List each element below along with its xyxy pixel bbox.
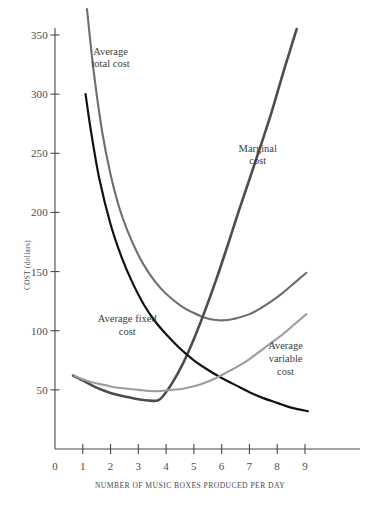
x-tick-label: 2 <box>108 460 114 472</box>
x-tick-label: 5 <box>191 460 197 472</box>
axes <box>55 28 360 449</box>
average-total-cost-label: Averagetotal cost <box>91 46 129 72</box>
annotation-line: variable <box>268 353 303 366</box>
y-tick-label: 50 <box>18 384 48 396</box>
x-tick-label: 3 <box>135 460 141 472</box>
x-tick-label: 8 <box>274 460 280 472</box>
cost-curves-figure: 50100150200250300350 0123456789 Averaget… <box>0 0 373 510</box>
x-tick-label: 9 <box>302 460 308 472</box>
chart-plot-area <box>0 0 373 510</box>
annotation-line: Average <box>91 46 129 59</box>
average-variable-cost-label: Averagevariablecost <box>268 340 303 378</box>
y-tick-label: 350 <box>18 29 48 41</box>
annotation-line: cost <box>239 156 277 169</box>
annotation-line: Marginal <box>239 143 277 156</box>
average-fixed-cost-label: Average fixedcost <box>98 313 157 339</box>
x-tick-label: 7 <box>247 460 253 472</box>
y-tick-label: 100 <box>18 325 48 337</box>
annotation-line: Average <box>268 340 303 353</box>
marginal-cost-curve <box>73 29 297 401</box>
x-axis-title: NUMBER OF MUSIC BOXES PRODUCED PER DAY <box>95 481 285 490</box>
x-tick-label: 6 <box>219 460 225 472</box>
y-tick-label: 150 <box>18 266 48 278</box>
annotation-line: cost <box>268 365 303 378</box>
x-tick-label: 0 <box>52 460 58 472</box>
marginal-cost-label: Marginalcost <box>239 143 277 169</box>
y-tick-label: 300 <box>18 88 48 100</box>
y-axis-title: COST (dollars) <box>24 240 32 290</box>
annotation-line: total cost <box>91 59 129 72</box>
y-tick-label: 200 <box>18 206 48 218</box>
annotation-line: cost <box>98 326 157 339</box>
y-tick-label: 250 <box>18 147 48 159</box>
x-tick-label: 4 <box>163 460 169 472</box>
annotation-line: Average fixed <box>98 313 157 326</box>
x-tick-label: 1 <box>80 460 86 472</box>
